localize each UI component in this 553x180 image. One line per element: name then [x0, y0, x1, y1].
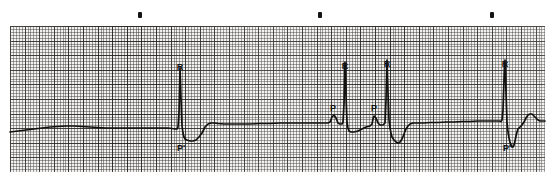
event-dot-1: [138, 12, 142, 18]
wave-label-r1: R: [177, 63, 184, 72]
wave-label-p2: P: [330, 104, 336, 113]
ecg-waveform-path: [10, 60, 545, 147]
wave-label-p3: P: [371, 104, 377, 113]
wave-label-r3: R: [384, 60, 391, 69]
event-dot-2: [318, 12, 322, 18]
wave-label-p1: P': [177, 144, 185, 153]
wave-label-p4: P': [503, 144, 511, 153]
ecg-trace-layer: [0, 0, 553, 180]
ecg-rhythm-strip: RP'PRPRRP': [0, 0, 553, 180]
wave-label-r4: R: [502, 60, 509, 69]
wave-label-r2: R: [342, 62, 349, 71]
event-dot-3: [490, 12, 494, 18]
